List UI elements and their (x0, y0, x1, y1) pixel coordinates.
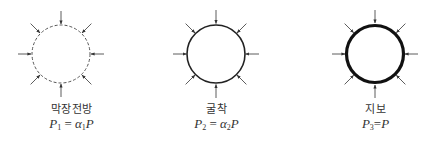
pressure-diagram-dashed (0, 0, 143, 100)
tunnel-outline-solid (187, 25, 245, 83)
pressure-equation: P2 = α2P (145, 117, 288, 135)
pressure-arrows (173, 10, 259, 98)
panel-excavation: 굴착 P2 = α2P (143, 0, 286, 146)
stage-label: 막장전방 (0, 104, 143, 116)
pressure-arrows (18, 11, 104, 97)
tunnel-outline-thick (347, 26, 404, 83)
pressure-diagram-solid (143, 0, 286, 100)
pressure-diagram-thick (286, 0, 428, 100)
pressure-equation: P1 = α1P (0, 117, 143, 135)
stage-label: 지보 (304, 104, 428, 116)
stage-label: 굴착 (145, 104, 288, 116)
panel-face-front: 막장전방 P1 = α1P (0, 0, 143, 146)
pressure-equation: P3=P (304, 117, 428, 135)
panel-support: 지보 P3=P (286, 0, 428, 146)
tunnel-outline-dashed (32, 25, 90, 83)
pressure-arrows (332, 10, 418, 98)
